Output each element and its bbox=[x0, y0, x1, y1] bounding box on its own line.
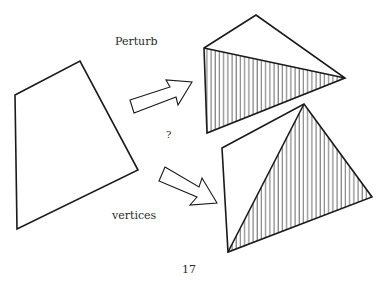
diagram-page: Perturb ? vertices 17 bbox=[0, 0, 385, 283]
label-perturb: Perturb bbox=[115, 35, 157, 48]
bottom-triangulation bbox=[222, 104, 372, 252]
label-question-mark: ? bbox=[166, 129, 171, 140]
page-number: 17 bbox=[182, 263, 196, 276]
original-quadrilateral bbox=[15, 61, 138, 229]
arrow-up-right-icon bbox=[130, 80, 192, 113]
triangulation-figure bbox=[0, 0, 385, 283]
top-triangulation bbox=[204, 15, 345, 133]
bottom-hatched-triangle bbox=[228, 104, 372, 252]
arrow-down-right-icon bbox=[159, 167, 217, 205]
label-vertices: vertices bbox=[112, 209, 156, 222]
